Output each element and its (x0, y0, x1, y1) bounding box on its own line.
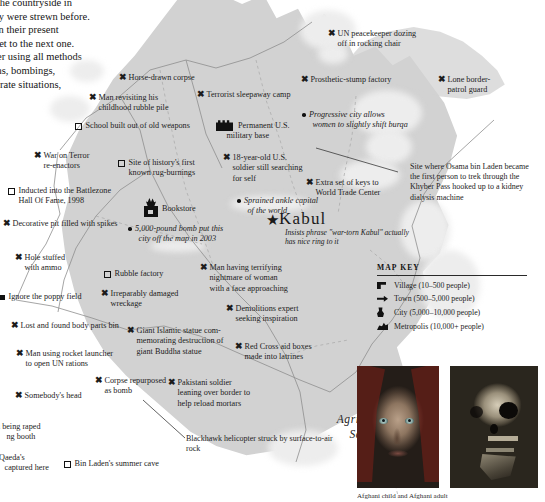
nasal-cavity (490, 424, 498, 434)
x-marker-icon: ✖ (88, 92, 97, 102)
capital-note: Insists phrase "war-torn Kabul" actually… (285, 228, 413, 247)
map-label-line: ✖Hole stuffed (14, 253, 65, 262)
map-label-line: ✖Terrorist sleepaway camp (196, 90, 291, 99)
eye-socket (499, 402, 518, 419)
map-label[interactable]: ✖Man having terrifyingnightmare of woman… (199, 262, 303, 294)
x-marker-icon: ✖ (94, 375, 103, 385)
terrain-highlight (70, 60, 104, 82)
terrain-highlight (366, 130, 412, 164)
x-marker-icon: ✖ (118, 72, 127, 82)
map-key-row-metropolis: Metropolis (10,000+ people) (377, 322, 527, 331)
map-label-line: ✖Extra set of keys to (305, 178, 379, 187)
x-marker-icon: ✖ (225, 303, 234, 313)
map-label[interactable]: ✖Man using rocket launcherto open UN rat… (15, 348, 139, 370)
dot-marker-icon (128, 227, 132, 231)
square-marker-icon (104, 271, 111, 278)
map-key: MAP KEY Village (10–500 people) Town (50… (377, 263, 527, 335)
map-label-line: ✖Red Cross aid boxes (234, 342, 312, 351)
map-label[interactable]: Permanent U.S.military base (216, 118, 296, 142)
map-label[interactable]: 5,000-pound bomb put thiscity off the ma… (128, 224, 240, 245)
city-icon (377, 307, 394, 317)
square-marker-icon (75, 123, 82, 130)
map-label-line: to open UN rations (15, 359, 139, 369)
map-label[interactable]: ✖Red Cross aid boxesmade into latrines (234, 341, 330, 363)
map-label-line: Site of history's first (118, 158, 195, 167)
map-label-line: ✖Lost and found body parts bin (10, 321, 119, 330)
map-label-line: patrol guard (437, 85, 507, 95)
map-key-label: Village (10–500 people) (394, 281, 470, 290)
map-label[interactable]: Progressive city allowswomen to slightly… (302, 110, 412, 131)
x-marker-icon: ✖ (196, 89, 205, 99)
map-label[interactable]: Rubble factory (104, 269, 184, 279)
map-label-line: with a face approaching (199, 284, 303, 294)
map-label[interactable]: ✖Terrorist sleepaway camp (196, 89, 316, 100)
map-label[interactable]: ✖Prosthetic-stump factory (300, 74, 416, 85)
intro-line: ss the countryside in (0, 0, 176, 10)
x-marker-icon: ✖ (234, 341, 243, 351)
map-label-line: ✖Pakistani soldier (167, 378, 232, 387)
map-label[interactable]: ✖Horse-drawn corpse (118, 72, 210, 83)
map-label[interactable]: ✖Hole stuffedwith ammo (14, 252, 84, 274)
intro-line: they were strewn before. (0, 10, 176, 24)
x-marker-icon: ✖ (300, 74, 309, 84)
terrain-highlight (50, 96, 90, 122)
map-label-line: women to slightly shift burqa (302, 120, 412, 130)
map-label-line: Inducted into the Battlezone (8, 186, 111, 195)
map-label-line: ✖UN peacekeeper dozing (327, 29, 416, 38)
metropolis-icon (377, 322, 394, 330)
dot-marker-icon (302, 113, 306, 117)
map-label[interactable]: Bookstore (143, 198, 203, 218)
map-label-line: Bin Laden's summer cave (64, 459, 159, 468)
x-marker-icon: ✖ (327, 28, 336, 38)
x-marker-icon: ✖ (14, 390, 23, 400)
map-label[interactable]: Sprained ankle capitalof the world (237, 196, 329, 217)
map-label[interactable]: ✖18-year-old U.S.soldier still searching… (222, 152, 306, 184)
map-label-line: ✖18-year-old U.S. (222, 153, 287, 162)
map-label[interactable]: Site of history's firstknown rug-burning… (118, 158, 208, 179)
map-label[interactable]: ✖Lone border-patrol guard (437, 74, 507, 96)
map-label-line: n being raped (0, 422, 41, 431)
map-key-row-village: Village (10–500 people) (377, 281, 527, 290)
dot-marker-icon (237, 199, 241, 203)
map-label-line: nightmare of woman (199, 273, 303, 283)
map-label-line: Bookstore (143, 204, 196, 213)
map-label[interactable]: n being rapedng booth (0, 422, 82, 443)
map-label-line: ✖Lone border- (437, 75, 490, 84)
map-label[interactable]: ✖War on Terrorre-enactors (33, 150, 113, 172)
map-label[interactable]: Inducted into the BattlezoneHall Of Fame… (8, 186, 138, 207)
map-label[interactable]: ✖Irreparably damagedwreckage (100, 288, 196, 310)
x-marker-icon: ✖ (437, 74, 446, 84)
x-marker-icon: ✖ (15, 348, 24, 358)
square-marker-icon (118, 160, 125, 167)
map-key-label: Town (500–5,000 people) (394, 294, 475, 303)
map-label-line: made into latrines (234, 352, 330, 362)
map-label-line: School built out of old weapons (75, 121, 190, 130)
map-label-line: Rubble factory (104, 269, 163, 278)
map-label-line: Sprained ankle capital (237, 196, 318, 205)
map-key-label: City (5,000–10,000 people) (394, 308, 480, 317)
map-label[interactable]: ✖Demolitions expertseeking inspiration (225, 303, 317, 325)
map-label-line: known rug-burnings (118, 168, 208, 178)
map-label[interactable]: ✖Giant Islamic statue com-memorating des… (126, 325, 232, 357)
annotation-blackhawk: Blackhawk helicopter struck by surface-t… (186, 434, 336, 454)
village-icon (377, 282, 394, 289)
map-label-line: ✖Prosthetic-stump factory (300, 75, 391, 84)
town-icon (377, 296, 394, 302)
map-label-line: ✖Man having terrifying (199, 263, 282, 272)
map-label-line: Hall Of Fame, 1998 (8, 196, 138, 206)
map-label-line: ✖Decorative pit filled with spikes (2, 219, 118, 228)
map-key-row-town: Town (500–5,000 people) (377, 294, 527, 303)
map-label[interactable]: School built out of old weapons (75, 121, 225, 131)
map-label[interactable]: l-Qaeda'scaptured here (0, 453, 74, 474)
map-label[interactable]: Ignore the poppy field (0, 292, 110, 302)
map-label-line: ✖Somebody's head (14, 391, 82, 400)
map-label-line: captured here (0, 463, 74, 473)
filled-square-marker-icon (0, 295, 5, 300)
map-label[interactable]: ✖Man revisiting hischildhood rubble pile (88, 92, 180, 114)
map-label[interactable]: Bin Laden's summer cave (64, 459, 188, 469)
map-label[interactable]: ✖UN peacekeeper dozingoff in rocking cha… (327, 28, 435, 50)
square-marker-icon (64, 461, 71, 468)
x-marker-icon: ✖ (33, 150, 42, 160)
map-label[interactable]: ✖Somebody's head (14, 390, 106, 401)
map-label[interactable]: ✖Pakistani soldierleaning over border to… (167, 377, 255, 409)
